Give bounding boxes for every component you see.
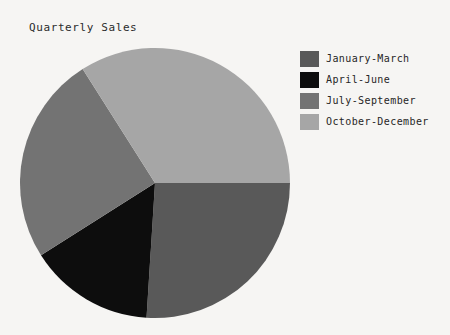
legend-item-label: October-December — [326, 114, 429, 130]
pie-chart-area — [20, 48, 290, 318]
pie-chart-svg — [20, 48, 290, 318]
cutoff-header-text: · · ·· ·· ·· — [140, 0, 330, 3]
legend-item-label: July-September — [326, 93, 416, 109]
legend-swatch-icon — [300, 114, 319, 130]
chart-title: Quarterly Sales — [29, 21, 137, 34]
legend-item-label: April-June — [326, 72, 390, 88]
legend-swatch-icon — [300, 72, 319, 88]
legend-item-july-september[interactable]: July-September — [300, 93, 429, 109]
chart-figure: · · ·· ·· ·· Quarterly Sales January-Mar… — [0, 0, 450, 335]
legend-item-october-december[interactable]: October-December — [300, 114, 429, 130]
legend-item-label: January-March — [326, 51, 409, 67]
chart-legend: January-March April-June July-September … — [300, 51, 429, 130]
legend-swatch-icon — [300, 51, 319, 67]
legend-item-april-june[interactable]: April-June — [300, 72, 429, 88]
legend-swatch-icon — [300, 93, 319, 109]
legend-item-january-march[interactable]: January-March — [300, 51, 429, 67]
pie-slice[interactable] — [147, 183, 290, 318]
